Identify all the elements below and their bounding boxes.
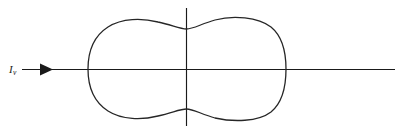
incident-ray-label: Iv [9, 60, 16, 77]
figure-container: Iv [0, 0, 402, 138]
figure-canvas [0, 0, 402, 138]
incident-ray-arrowhead-icon [40, 64, 53, 76]
incident-ray-subscript: v [13, 68, 16, 77]
